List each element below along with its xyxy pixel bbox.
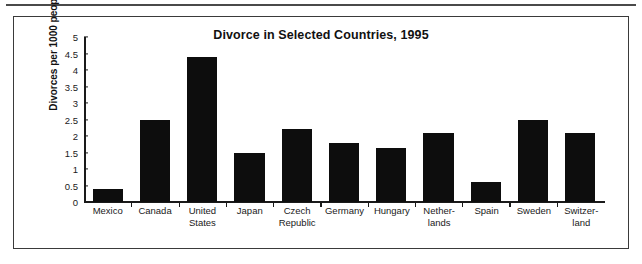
bar-series [84,37,604,202]
bar-slot [320,37,367,202]
bar [140,120,170,203]
y-tick-label: 2.5 [65,114,84,125]
y-tick-label: 1.5 [65,147,84,158]
bar [187,57,217,202]
x-tick-label-line: States [179,217,226,229]
x-tick-label: Mexico [84,205,131,217]
bar-slot [179,37,226,202]
x-axis-labels: MexicoCanadaUnitedStatesJapanCzechRepubl… [84,205,605,245]
y-tick-label: 4 [73,65,84,76]
bar [376,148,406,202]
x-tick-label-line: Nether- [416,205,463,217]
plot-area: 00.511.522.533.544.55 [84,37,604,202]
x-tick-label: Hungary [368,205,415,217]
bar [234,153,264,203]
y-tick-label: 1 [73,164,84,175]
bar-slot [273,37,320,202]
x-tick-label: Nether-lands [416,205,463,228]
x-tick-label-line: United [179,205,226,217]
x-tick-label: CzechRepublic [273,205,320,228]
bar-slot [368,37,415,202]
x-tick-label-line: Republic [273,217,320,229]
bar-slot [415,37,462,202]
x-tick-label: Spain [463,205,510,217]
y-tick-label: 3 [73,98,84,109]
top-rule-divider [6,4,636,6]
bar-slot [226,37,273,202]
x-tick-label-line: Canada [131,205,178,217]
bar [423,133,453,202]
x-tick-label-line: Spain [463,205,510,217]
y-tick-label: 5 [73,32,84,43]
bar-slot [131,37,178,202]
x-tick-label-line: Hungary [368,205,415,217]
x-tick-label: Sweden [510,205,557,217]
x-tick-label-line: lands [416,217,463,229]
y-tick-label: 2 [73,131,84,142]
y-tick-label: 3.5 [65,81,84,92]
x-tick-label: UnitedStates [179,205,226,228]
x-tick-label: Canada [131,205,178,217]
x-tick-label: Japan [226,205,273,217]
chart-frame: Divorce in Selected Countries, 1995 Divo… [13,16,629,249]
bar [565,133,595,202]
x-tick-label-line: Switzer- [558,205,605,217]
y-axis-label: Divorces per 1000 people [48,0,59,121]
bar-slot [462,37,509,202]
x-tick-label-line: Mexico [84,205,131,217]
x-tick-label-line: Czech [273,205,320,217]
bar [329,143,359,202]
bar [282,129,312,202]
x-tick-label-line: land [558,217,605,229]
y-tick-label: 4.5 [65,48,84,59]
y-tick-label: 0.5 [65,180,84,191]
y-tick-label: 0 [73,197,84,208]
x-tick-label-line: Sweden [510,205,557,217]
x-tick-label: Germany [321,205,368,217]
bar [93,189,123,202]
bar-slot [557,37,604,202]
x-tick-label: Switzer-land [558,205,605,228]
x-tick-label-line: Japan [226,205,273,217]
bar [518,120,548,203]
x-tick-label-line: Germany [321,205,368,217]
bar [471,182,501,202]
bar-slot [509,37,556,202]
figure-page: Divorce in Selected Countries, 1995 Divo… [0,0,642,264]
bar-slot [84,37,131,202]
